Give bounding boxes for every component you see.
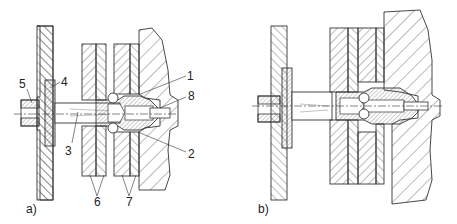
plate-6a-top [82,44,96,100]
pin-8 [150,108,170,118]
plate-b4-bottom [376,124,384,184]
plate-6b-top [96,44,106,100]
callout-3: 3 [65,144,72,158]
callout-4: 4 [61,75,68,89]
plate-b2-top [348,28,358,92]
plate-7b-bottom [130,132,139,176]
diagram-canvas: 5 4 3 1 8 2 6 7 a) [0,0,457,224]
plate-b2-bottom [348,120,358,184]
bushing-b-bottom [258,114,280,122]
plate-b1-bottom [330,120,348,184]
figure-a: 5 4 3 1 8 2 6 7 a) [14,26,195,216]
plate-7b-top [130,44,139,94]
plate-7a-top [114,44,130,94]
plate-b3-top [358,28,376,82]
plate-b4-top [376,28,384,82]
plate-b3-bottom [358,132,376,184]
plate-6a-bottom [82,126,96,176]
callout-7: 7 [126,195,133,209]
bushing-5-top [21,100,39,108]
callout-2: 2 [188,147,195,161]
bushing-5-bottom [21,118,39,126]
callout-8: 8 [188,89,195,103]
ball-b-bottom [359,109,369,119]
plate-b1-top [330,28,348,92]
bushing-b-top [258,96,280,104]
ejector-plate-4 [45,80,55,146]
ball-top [108,93,118,103]
callout-1: 1 [187,69,194,83]
figure-b: b) [252,10,444,216]
figure-b-caption: b) [258,202,269,216]
figure-a-caption: a) [26,202,37,216]
ejector-plate-b [282,68,292,148]
ball-b-top [359,93,369,103]
callout-6: 6 [94,195,101,209]
ball-bottom [108,123,118,133]
plate-6b-bottom [96,126,106,176]
plate-7a-bottom [114,132,130,176]
callout-5: 5 [19,77,26,91]
